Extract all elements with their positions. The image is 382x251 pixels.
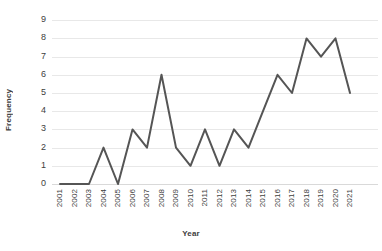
- data-series-line: [60, 38, 350, 184]
- line-chart: Frequency Year 0123456789 20012002200320…: [0, 0, 382, 251]
- plot-area: [0, 0, 382, 251]
